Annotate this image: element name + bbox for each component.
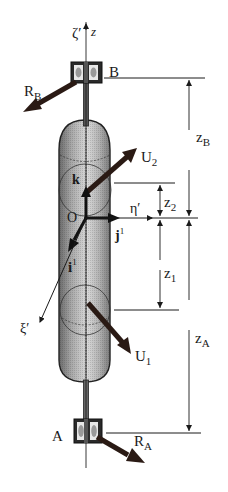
z2-label: z2 <box>164 194 176 213</box>
zb-label: zB <box>196 129 210 148</box>
bearing-b <box>71 62 102 83</box>
eta-prime-label: η′ <box>130 201 140 216</box>
u1-label: U1 <box>135 348 151 367</box>
ra-sub: A <box>144 440 152 452</box>
z-axis-label: z <box>90 24 96 39</box>
u2-sub: 2 <box>152 156 158 168</box>
ra-label: RA <box>134 433 152 452</box>
u2-main: U <box>141 149 152 165</box>
point-a-label: A <box>52 428 63 444</box>
u1-sub: 1 <box>146 355 152 367</box>
rb-sub: B <box>34 90 41 102</box>
rb-label: RB <box>24 83 41 102</box>
zeta-prime-label: ζ′ <box>72 25 82 41</box>
u1-main: U <box>135 348 146 364</box>
j-label: j1 <box>114 226 124 243</box>
dimension-arrows <box>160 80 189 431</box>
i-sup: 1 <box>72 257 77 267</box>
rotor-cylinder <box>59 120 111 382</box>
rb-main: R <box>24 83 34 99</box>
zb-sub: B <box>203 136 210 148</box>
z2-sub: 2 <box>171 201 177 213</box>
z1-label: z1 <box>164 265 176 284</box>
za-sub: A <box>202 337 210 349</box>
ra-main: R <box>134 433 144 449</box>
u2-label: U2 <box>141 149 157 168</box>
z1-sub: 1 <box>171 272 177 284</box>
za-label: zA <box>195 330 210 349</box>
origin-label: O <box>67 210 77 225</box>
j-sup: 1 <box>120 226 125 236</box>
xi-prime-label: ξ′ <box>20 321 29 336</box>
k-label: k <box>72 172 80 187</box>
point-b-label: B <box>109 64 119 80</box>
rotor-diagram: ζ′ z B A O RB U2 U1 RA k j1 i1 η′ ξ′ zB … <box>0 0 228 492</box>
dimension-lines <box>104 78 205 433</box>
